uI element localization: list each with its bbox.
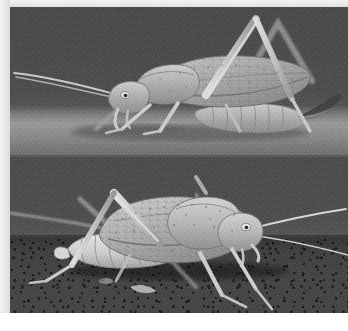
- page-margin-left: [0, 0, 10, 331]
- page-margin-bottom: [0, 313, 348, 331]
- photo-panel-bottom: [10, 157, 348, 313]
- katydid-illustration-bottom: [10, 157, 348, 313]
- photo-panel-top: [10, 7, 348, 156]
- photo-plate: Katydid (bush cricket) two-view photogra…: [0, 0, 348, 331]
- katydid-illustration-top: [10, 7, 348, 156]
- page-margin-top: [0, 0, 348, 7]
